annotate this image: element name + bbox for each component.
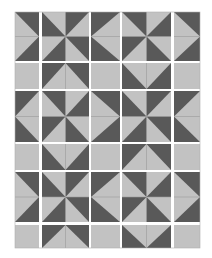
quilt-block-point-up: [122, 144, 171, 170]
light-fabric: [15, 63, 39, 89]
quilt-block-pinwheel-b: [42, 91, 89, 142]
quilt-block-plain: [15, 63, 39, 89]
quilt-block-pinwheel-a: [42, 12, 89, 61]
light-fabric: [174, 225, 200, 248]
light-fabric: [174, 63, 200, 89]
light-fabric: [15, 225, 39, 248]
quilt-block-point-down: [122, 225, 171, 248]
quilt-block-point-right: [91, 91, 120, 142]
quilt-block-point-right: [15, 12, 39, 61]
quilt-block-point-left: [174, 91, 200, 142]
quilt-block-plain: [91, 225, 120, 248]
quilt-block-plain: [15, 144, 39, 170]
quilt-block-pinwheel-b: [122, 12, 171, 61]
quilt-block-point-left: [91, 172, 120, 222]
light-fabric: [91, 144, 120, 170]
quilt-block-point-up: [42, 225, 89, 248]
quilt-block-point-right: [15, 172, 39, 222]
quilt-block-point-down: [42, 144, 89, 170]
quilt-block-point-left: [91, 12, 120, 61]
quilt-block-pinwheel-a: [42, 172, 89, 222]
light-fabric: [15, 144, 39, 170]
quilt-block-point-left: [15, 91, 39, 142]
quilt-block-point-right: [174, 172, 200, 222]
light-fabric: [174, 144, 200, 170]
quilt-block-point-down: [122, 63, 171, 89]
quilt-block-pinwheel-b: [122, 172, 171, 222]
quilt-block-point-right: [174, 12, 200, 61]
quilt-block-plain: [174, 144, 200, 170]
quilt-block-plain: [174, 225, 200, 248]
quilt-block-plain: [174, 63, 200, 89]
light-fabric: [91, 63, 120, 89]
light-fabric: [91, 225, 120, 248]
quilt-block-plain: [91, 63, 120, 89]
quilt-diagram: [0, 0, 212, 258]
quilt-block-plain: [15, 225, 39, 248]
quilt-block-pinwheel-a: [122, 91, 171, 142]
quilt-block-plain: [91, 144, 120, 170]
quilt-block-point-up: [42, 63, 89, 89]
